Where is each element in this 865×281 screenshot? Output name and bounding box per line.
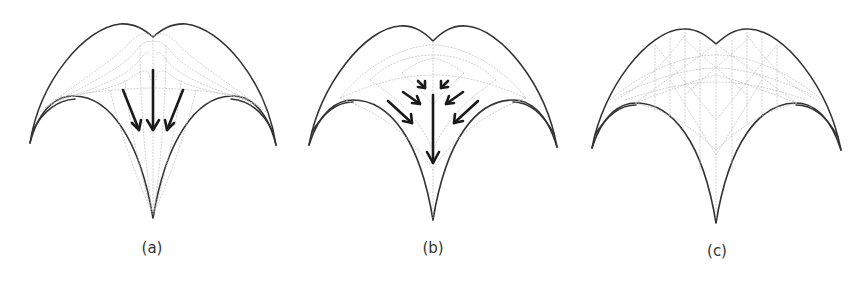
panel-a: (a): [0, 0, 300, 281]
grid-mesh-lines: [610, 32, 822, 220]
caption-b: (b): [422, 239, 443, 257]
caption-a: (a): [142, 239, 163, 257]
force-arrows: [123, 70, 183, 130]
caption-c: (c): [707, 242, 727, 260]
panel-c: (c): [575, 0, 865, 281]
panel-b: (b): [290, 0, 580, 281]
vault-diagram-c: [575, 0, 865, 281]
